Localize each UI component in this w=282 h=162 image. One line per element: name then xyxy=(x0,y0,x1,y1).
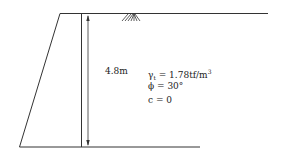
wall-slope-line xyxy=(20,14,61,148)
gamma-subscript: t xyxy=(153,74,155,81)
ground-hatch-icon xyxy=(122,14,140,21)
retaining-wall-diagram xyxy=(0,0,282,162)
cohesion-label: c = 0 xyxy=(148,95,172,106)
height-dimension-arrow xyxy=(86,15,89,146)
friction-angle-label: ϕ = 30° xyxy=(148,81,183,92)
gamma-value: = 1.78tf/m xyxy=(159,70,208,80)
height-label: 4.8m xyxy=(105,66,128,77)
gamma-unit-exponent: 3 xyxy=(208,68,212,75)
